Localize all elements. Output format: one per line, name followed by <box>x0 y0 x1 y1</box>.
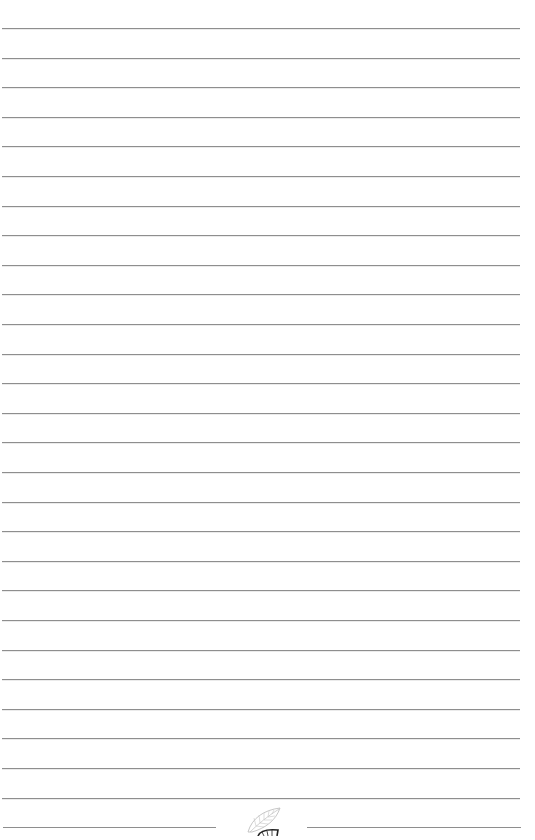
ruled-line <box>2 265 520 266</box>
ruled-line <box>2 561 520 562</box>
ruled-line <box>2 176 520 177</box>
ruled-line <box>2 442 520 443</box>
leaf-icon <box>242 806 292 836</box>
ruled-line <box>2 798 520 799</box>
footer-rule-left <box>3 827 216 828</box>
ruled-line <box>2 235 520 236</box>
ruled-line <box>2 28 520 29</box>
ruled-line <box>2 679 520 680</box>
ruled-line <box>2 383 520 384</box>
ruled-line <box>2 650 520 651</box>
ruled-line <box>2 206 520 207</box>
ruled-line <box>2 87 520 88</box>
ruled-line <box>2 620 520 621</box>
ruled-line <box>2 294 520 295</box>
ruled-line <box>2 472 520 473</box>
ruled-line <box>2 58 520 59</box>
ruled-line <box>2 590 520 591</box>
ruled-line <box>2 502 520 503</box>
footer-rule-right <box>307 827 521 828</box>
ruled-line <box>2 531 520 532</box>
ruled-line <box>2 354 520 355</box>
ruled-line <box>2 709 520 710</box>
ruled-line <box>2 738 520 739</box>
ruled-line <box>2 768 520 769</box>
ruled-line <box>2 413 520 414</box>
ruled-line <box>2 117 520 118</box>
ruled-line <box>2 324 520 325</box>
ruled-line <box>2 146 520 147</box>
